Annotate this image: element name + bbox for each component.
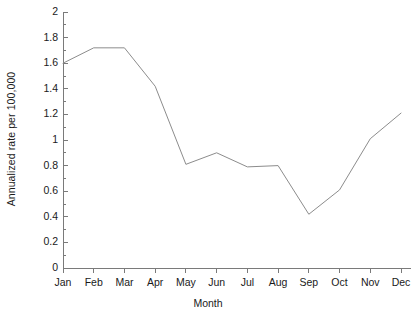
y-axis-tick-label: 1 xyxy=(20,133,58,145)
y-axis-title: Annualized rate per 100,000 xyxy=(0,0,22,278)
x-axis-title: Month xyxy=(0,297,416,309)
y-axis-title-text: Annualized rate per 100,000 xyxy=(5,72,17,207)
y-axis-tick-label: 0.4 xyxy=(20,210,58,222)
chart-figure: Annualized rate per 100,000 Month 00.20.… xyxy=(0,0,416,318)
y-axis-tick-label: 0 xyxy=(20,261,58,273)
y-axis-tick-label: 1.6 xyxy=(20,56,58,68)
y-axis-tick-label: 1.8 xyxy=(20,31,58,43)
y-axis-tick-label: 2 xyxy=(20,5,58,17)
y-axis-tick-label: 1.2 xyxy=(20,107,58,119)
x-axis-tick-label: Dec xyxy=(381,276,416,288)
y-axis-tick-label: 0.2 xyxy=(20,235,58,247)
data-series-line xyxy=(63,48,401,214)
y-axis-tick-label: 1.4 xyxy=(20,82,58,94)
y-axis-tick-label: 0.6 xyxy=(20,184,58,196)
plot-area xyxy=(0,0,416,318)
y-axis-tick-label: 0.8 xyxy=(20,159,58,171)
